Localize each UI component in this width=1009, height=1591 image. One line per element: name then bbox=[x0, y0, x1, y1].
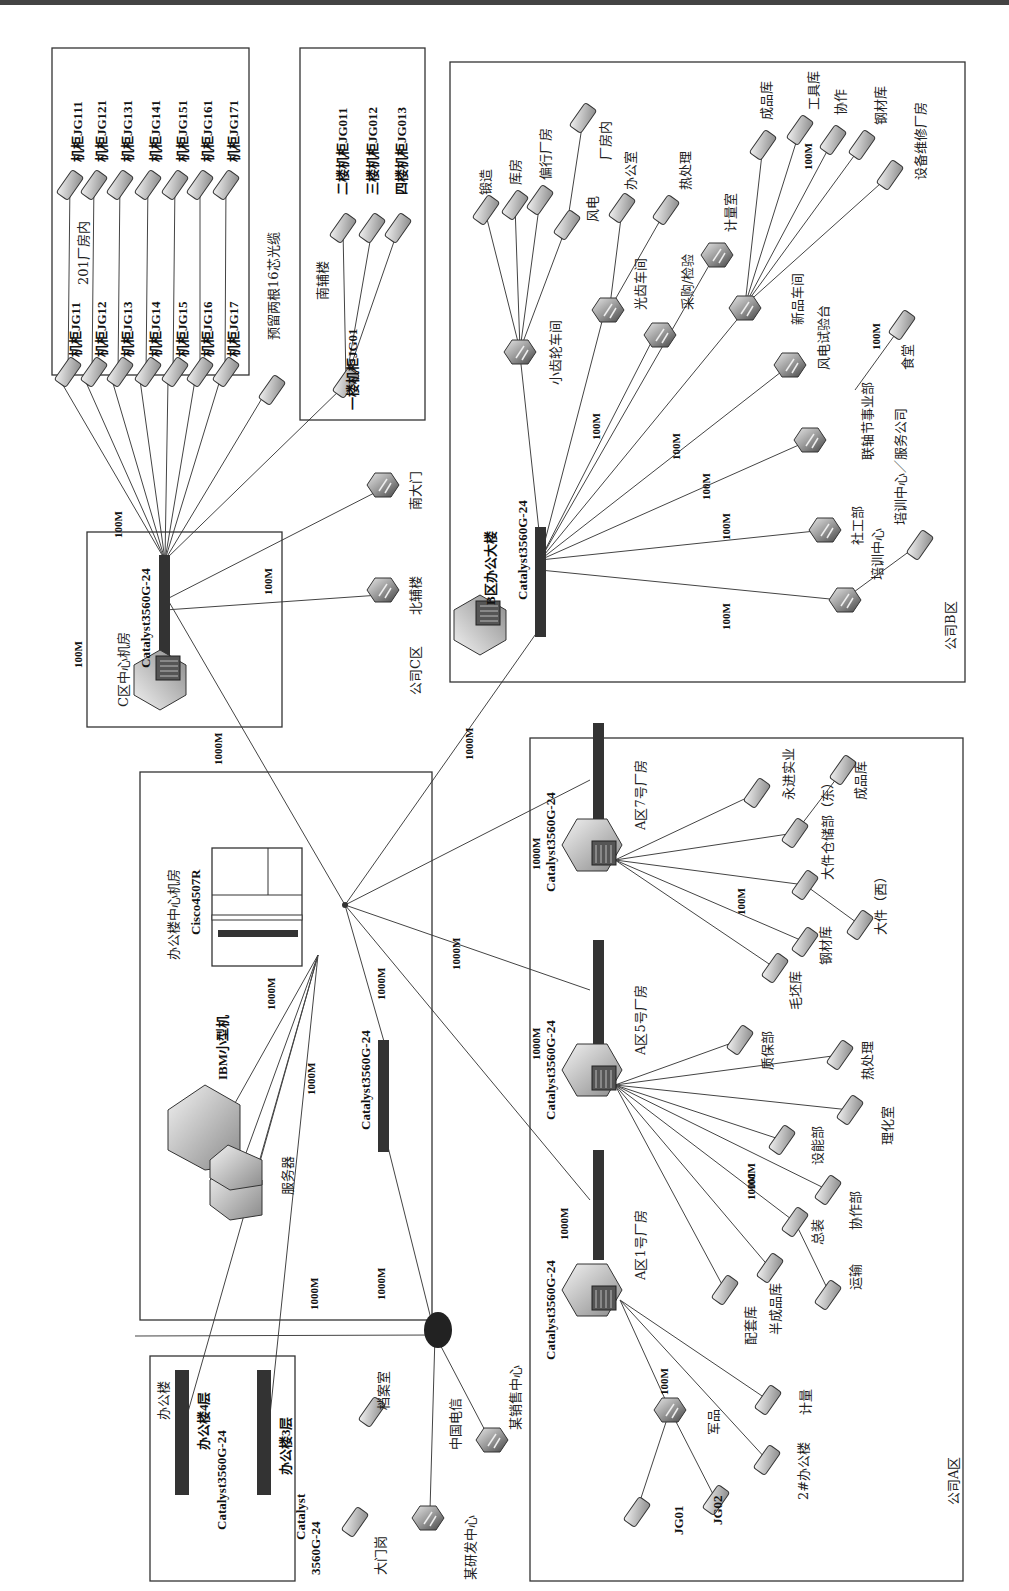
network-topology-diagram: 201厂房内 机柜JG11 机柜JG12 机柜JG13 机柜JG14 机柜JG1… bbox=[0, 0, 1009, 1591]
plant-inside-label: 厂房内 bbox=[598, 121, 613, 160]
light-workshop-label: 光齿车间 bbox=[633, 258, 648, 310]
semi-finished-label: 半成品库 bbox=[768, 1283, 783, 1335]
steel-storage-label: 钢材库 bbox=[873, 86, 888, 125]
rnd-center-router-icon bbox=[412, 1506, 444, 1530]
plant7-switch-label: Catalyst3560G-24 bbox=[543, 792, 558, 892]
core-hub-point bbox=[342, 902, 348, 908]
canteen-label: 食堂 bbox=[900, 344, 915, 370]
military-router-icon bbox=[654, 1398, 686, 1422]
speed-label: 100M bbox=[670, 433, 682, 461]
large-parts-west-label: 大件（西） bbox=[873, 870, 888, 935]
south-building-floor2-label: 二楼机柜JG011 bbox=[335, 108, 350, 195]
south-gate-router-icon bbox=[367, 473, 399, 497]
jg02-label: JG02 bbox=[710, 1495, 725, 1525]
finished-goods-label: 成品库 bbox=[759, 81, 774, 120]
heat-treatment-a-label: 热处理 bbox=[860, 1041, 875, 1080]
speed-label: 1000M bbox=[450, 937, 462, 970]
speed-label: 100M bbox=[72, 641, 84, 669]
speed-label: 100M bbox=[658, 1368, 670, 1396]
reserve-fiber-label: 预留两根16芯光缆 bbox=[266, 232, 281, 340]
zone-a-label: 公司A区 bbox=[946, 1457, 961, 1505]
plant1-label: A区1号厂房 bbox=[633, 1210, 648, 1281]
large-parts-east-label: 大件仓储部（东） bbox=[820, 776, 835, 880]
coupling-division-label: 联轴节事业部 bbox=[860, 382, 875, 460]
speed-label: 100M bbox=[720, 603, 732, 631]
zone-c-room-label: C区中心机房 bbox=[116, 632, 131, 707]
svg-text:机柜JG111: 机柜JG111 bbox=[70, 101, 85, 162]
svg-text:机柜JG121: 机柜JG121 bbox=[94, 100, 109, 162]
gate-post-label: 大门岗 bbox=[373, 1536, 388, 1575]
gate-post-hub-icon bbox=[341, 1507, 369, 1538]
steel-storage-a-label: 钢材库 bbox=[818, 926, 833, 965]
military-label: 军品 bbox=[706, 1409, 721, 1435]
crane-plant-label: 偏行厂房 bbox=[538, 128, 553, 180]
plant7-label: A区7号厂房 bbox=[633, 760, 648, 831]
heat-treatment-label: 热处理 bbox=[678, 151, 693, 190]
speed-label: 100M bbox=[802, 143, 814, 171]
plant5-label: A区5号厂房 bbox=[633, 985, 648, 1056]
warehouse-label: 库房 bbox=[508, 159, 523, 185]
zone-c-switch-icon bbox=[159, 555, 170, 655]
speed-label: 100M bbox=[745, 1173, 757, 1201]
svg-text:机柜JG15: 机柜JG15 bbox=[175, 301, 190, 357]
china-telecom-label: 中国电信 bbox=[448, 1398, 463, 1450]
zone-c-label: 公司C区 bbox=[408, 646, 423, 695]
core-room-label: 办公楼中心机房 bbox=[166, 869, 181, 960]
svg-text:机柜JG14: 机柜JG14 bbox=[148, 301, 163, 357]
plant5-switch-bar bbox=[593, 940, 604, 1050]
equipment-energy-label: 设能部 bbox=[810, 1126, 825, 1165]
svg-text:机柜JG11: 机柜JG11 bbox=[68, 302, 83, 357]
training-service-label: 培训中心／服务公司 bbox=[893, 408, 908, 525]
plant1-switch-bar bbox=[593, 1150, 604, 1260]
assembly-label: 总装 bbox=[810, 1219, 825, 1245]
zone-b-building-label: B区办公大楼 bbox=[483, 531, 498, 605]
union-dept-label: 社工部 bbox=[850, 506, 865, 545]
cooperation-dept-label: 协作部 bbox=[848, 1191, 863, 1230]
cisco4507r-chassis bbox=[212, 848, 302, 966]
north-building-router-icon bbox=[367, 578, 399, 602]
plant1-switch-icon bbox=[562, 1264, 622, 1316]
south-building-floor3-label: 三楼机柜JG012 bbox=[365, 107, 380, 195]
zone-b-label: 公司B区 bbox=[943, 601, 958, 650]
office-label: 办公室 bbox=[623, 151, 638, 190]
archive-room-label: 档案室 bbox=[376, 1371, 391, 1410]
gear-workshop-label: 小齿轮车间 bbox=[548, 320, 563, 385]
speed-label: 1000M bbox=[265, 977, 277, 1010]
speed-label: 100M bbox=[720, 513, 732, 541]
wind-power-label: 风电 bbox=[585, 196, 600, 222]
forging-label: 锻造 bbox=[478, 169, 493, 195]
office-floor3-label: 办公楼3层 bbox=[278, 1417, 293, 1476]
speed-label: 1000M bbox=[212, 732, 224, 765]
svg-text:机柜JG17: 机柜JG17 bbox=[226, 301, 241, 357]
zone-c-switch-label: Catalyst3560G-24 bbox=[138, 568, 153, 668]
new-workshop-label: 新品车间 bbox=[790, 273, 805, 325]
office-floor3-switch-label-2: 3560G-24 bbox=[308, 1521, 323, 1575]
speed-label: 100M bbox=[870, 323, 882, 351]
north-building-label: 北辅楼 bbox=[408, 576, 423, 615]
server-icons bbox=[210, 1145, 262, 1220]
cisco4507r-device bbox=[212, 848, 302, 937]
sales-center-label: 某销售中心 bbox=[508, 1365, 523, 1430]
zone-b-switch-label: Catalyst3560G-24 bbox=[515, 500, 530, 600]
office-building-label: 办公楼 bbox=[156, 1381, 171, 1420]
svg-text:机柜JG12: 机柜JG12 bbox=[94, 301, 109, 357]
equipment-repair-label: 设备维修厂房 bbox=[913, 102, 928, 180]
zone-b-switch-icon bbox=[535, 527, 546, 637]
metering-label: 计量 bbox=[798, 1389, 813, 1415]
svg-text:机柜JG171: 机柜JG171 bbox=[226, 100, 241, 162]
factory-201-label: 201厂房内 bbox=[76, 221, 91, 285]
speed-label: 100M bbox=[112, 511, 124, 539]
svg-text:机柜JG151: 机柜JG151 bbox=[175, 100, 190, 162]
speed-label: 100M bbox=[735, 888, 747, 916]
speed-label: 100M bbox=[262, 568, 274, 596]
speed-label: 1000M bbox=[375, 967, 387, 1000]
wind-test-bench-label: 风电试验台 bbox=[816, 305, 831, 370]
cabinet-labels-right: 机柜JG111 机柜JG121 机柜JG131 机柜JG141 机柜JG151 … bbox=[70, 100, 241, 162]
lab-room-label: 理化室 bbox=[880, 1106, 895, 1145]
agg-switch-label: Catalyst3560G-24 bbox=[358, 1030, 373, 1130]
svg-text:机柜JG13: 机柜JG13 bbox=[120, 301, 135, 357]
office-floor4-switch-label: Catalyst3560G-24 bbox=[214, 1430, 229, 1530]
rnd-center-label: 某研发中心 bbox=[463, 1515, 478, 1580]
jg01-label: JG01 bbox=[671, 1505, 686, 1535]
cooperation-label: 协作 bbox=[833, 89, 848, 115]
